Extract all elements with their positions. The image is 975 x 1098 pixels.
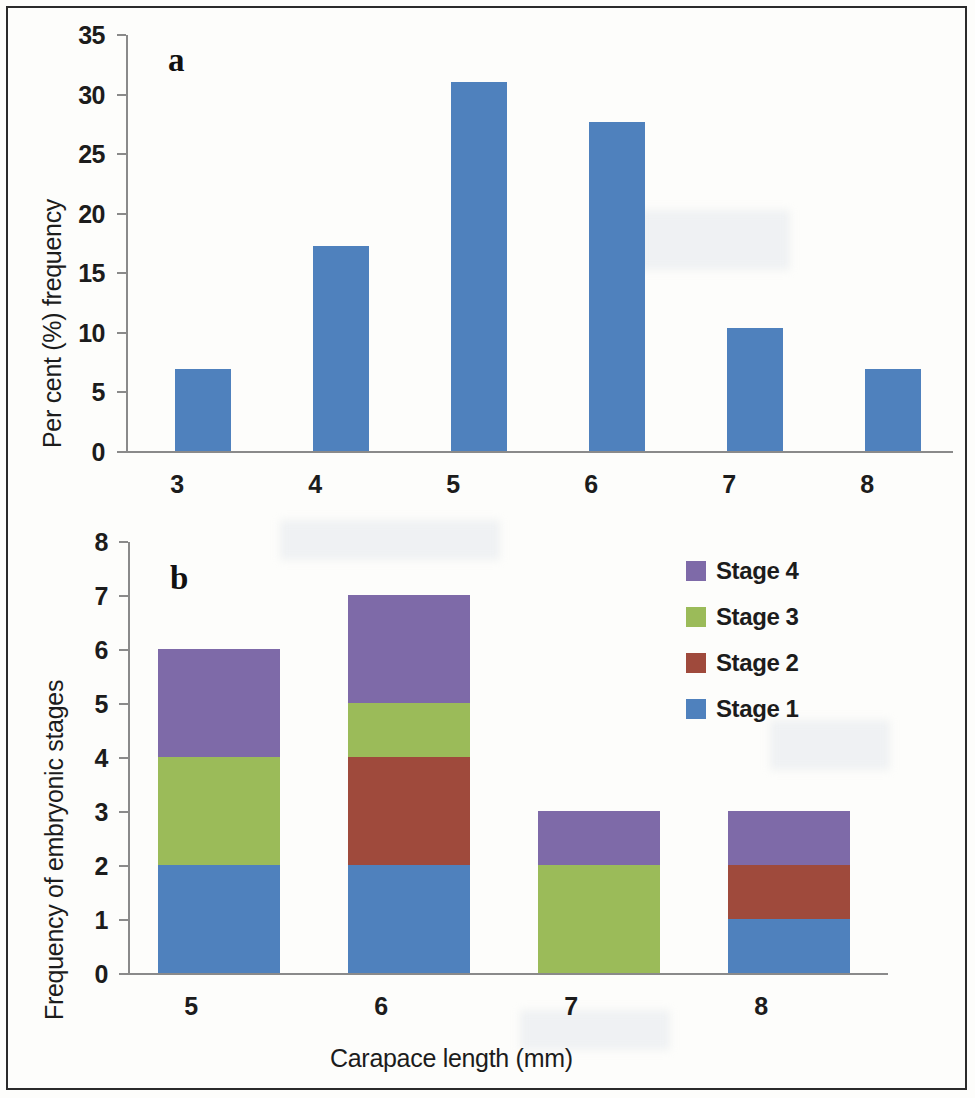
panel-a-ytick-label: 15: [60, 259, 105, 288]
panel-b-ytick-label: 0: [68, 960, 108, 989]
panel-a-xtick-label: 7: [687, 470, 771, 499]
legend-label-stage-4: Stage 4: [716, 557, 799, 585]
panel-b-ytick-label: 4: [68, 744, 108, 773]
panel-a-ytick-label: 0: [60, 438, 105, 467]
bar-segment-stage1: [348, 865, 470, 973]
panel-b-y-tick: [119, 595, 128, 597]
panel-b-y-tick: [119, 757, 128, 759]
legend-item-stage-4[interactable]: Stage 4: [686, 548, 916, 594]
panel-b-ytick-label: 1: [68, 906, 108, 935]
panel-b-ytick-label: 8: [68, 528, 108, 557]
panel-a-xtick-label: 8: [825, 470, 909, 499]
bar-a-5: [451, 82, 507, 451]
panel-b-y-tick: [119, 703, 128, 705]
panel-a-y-tick: [117, 153, 126, 155]
legend-swatch-stage-1: [686, 699, 706, 719]
panel-b-y-tick: [119, 811, 128, 813]
panel-b-xtick-label: 5: [136, 992, 246, 1021]
legend-label-stage-3: Stage 3: [716, 603, 799, 631]
panel-a-ytick-label: 5: [60, 378, 105, 407]
bar-a-4: [313, 246, 369, 451]
bar-segment-stage1: [158, 865, 280, 973]
panel-a-x-axis-line: [126, 451, 953, 453]
panel-a-ytick-label: 35: [60, 21, 105, 50]
panel-a-plot-area: [126, 34, 953, 451]
legend-swatch-stage-4: [686, 561, 706, 581]
bar-segment-stage4: [728, 811, 850, 865]
panel-a-xtick-label: 5: [411, 470, 495, 499]
panel-a-ytick-label: 20: [60, 199, 105, 228]
panel-b-y-tick: [119, 865, 128, 867]
legend-item-stage-2[interactable]: Stage 2: [686, 640, 916, 686]
panel-b-y-tick: [119, 919, 128, 921]
panel-b-y-tick: [119, 649, 128, 651]
panel-b-y-tick: [119, 541, 128, 543]
panel-a-ytick-label: 25: [60, 140, 105, 169]
legend-item-stage-1[interactable]: Stage 1: [686, 686, 916, 732]
bar-b-7: [538, 811, 660, 973]
panel-a-xtick-label: 3: [135, 470, 219, 499]
panel-b-legend: Stage 4 Stage 3 Stage 2 Stage 1: [686, 548, 916, 732]
panel-b-ytick-label: 7: [68, 582, 108, 611]
panel-a-ytick-label: 30: [60, 80, 105, 109]
chart-panel-a: Per cent (%) frequency a 35 30 25 20 15 …: [0, 0, 975, 510]
panel-a-xtick-label: 6: [549, 470, 633, 499]
bar-a-6: [589, 122, 645, 451]
panel-a-y-tick: [117, 332, 126, 334]
panel-b-ytick-label: 6: [68, 636, 108, 665]
panel-b-y-axis-title: Frequency of embryonic stages: [40, 680, 69, 1020]
figure-container: Per cent (%) frequency a 35 30 25 20 15 …: [0, 0, 975, 1098]
bar-a-8: [865, 369, 921, 451]
bar-b-8: [728, 811, 850, 973]
legend-item-stage-3[interactable]: Stage 3: [686, 594, 916, 640]
bar-b-6: [348, 595, 470, 973]
legend-label-stage-2: Stage 2: [716, 649, 799, 677]
panel-a-y-tick: [117, 94, 126, 96]
panel-a-y-tick: [117, 34, 126, 36]
bar-a-3: [175, 369, 231, 451]
bar-b-5: [158, 649, 280, 973]
panel-b-xtick-label: 8: [706, 992, 816, 1021]
panel-b-ytick-label: 5: [68, 690, 108, 719]
bar-segment-stage1: [728, 919, 850, 973]
bar-segment-stage2: [728, 865, 850, 919]
panel-b-ytick-label: 3: [68, 798, 108, 827]
bar-a-7: [727, 328, 783, 451]
bar-segment-stage3: [538, 865, 660, 973]
panel-a-y-tick: [117, 272, 126, 274]
panel-a-y-tick: [117, 391, 126, 393]
legend-swatch-stage-3: [686, 607, 706, 627]
chart-panel-b: Frequency of embryonic stages b 8 7 6 5 …: [0, 520, 975, 1098]
bar-segment-stage2: [348, 757, 470, 865]
bar-segment-stage4: [158, 649, 280, 757]
legend-label-stage-1: Stage 1: [716, 695, 799, 723]
bar-segment-stage3: [158, 757, 280, 865]
panel-b-x-axis-line: [128, 973, 888, 975]
panel-b-xtick-label: 7: [516, 992, 626, 1021]
panel-b-y-tick: [119, 973, 128, 975]
panel-a-ytick-label: 10: [60, 318, 105, 347]
legend-swatch-stage-2: [686, 653, 706, 673]
panel-b-x-axis-title: Carapace length (mm): [330, 1044, 573, 1073]
bar-segment-stage3: [348, 703, 470, 757]
bar-segment-stage4: [348, 595, 470, 703]
panel-a-y-tick: [117, 213, 126, 215]
panel-a-y-tick: [117, 451, 126, 453]
bar-segment-stage4: [538, 811, 660, 865]
panel-b-xtick-label: 6: [326, 992, 436, 1021]
panel-a-xtick-label: 4: [273, 470, 357, 499]
panel-b-ytick-label: 2: [68, 852, 108, 881]
